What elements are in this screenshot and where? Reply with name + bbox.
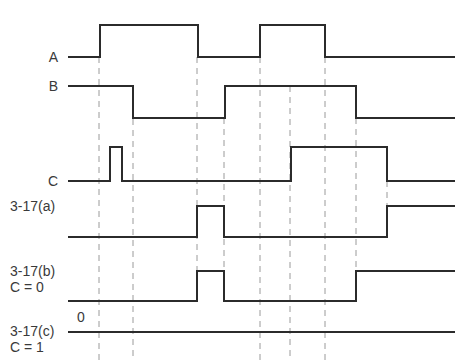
signal-label-b: B [49,78,58,94]
label-text: C [48,173,58,189]
waveform-a [68,25,455,57]
label-condition: C = 0 [10,279,44,295]
guide-lines [99,57,387,360]
label-text: 3-17(a) [10,198,55,214]
timing-diagram: A B C 3-17(a) 3-17(b) C = 0 3-17(c) C = … [0,0,457,363]
waveform-3-17b [68,271,455,301]
label-text: 3-17(b) [10,263,55,279]
signal-label-3-17c: 3-17(c) C = 1 [10,323,54,355]
label-text: 3-17(c) [10,323,54,339]
annotation-text: 0 [77,309,85,325]
waveform-c [68,147,455,181]
signal-label-c: C [48,173,58,189]
label-text: B [49,78,58,94]
waveform-b [68,86,455,118]
timing-diagram-canvas [0,0,457,363]
signal-label-3-17b: 3-17(b) C = 0 [10,263,55,295]
label-text: A [49,49,58,65]
signal-label-3-17a: 3-17(a) [10,198,55,214]
waveform-3-17a [68,206,455,237]
constant-zero-annotation: 0 [77,309,85,325]
label-condition: C = 1 [10,339,44,355]
waveforms [68,25,455,332]
signal-label-a: A [49,49,58,65]
